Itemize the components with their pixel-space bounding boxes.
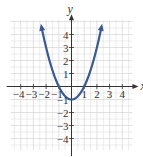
axes (7, 14, 139, 156)
parabola-chart: −4−3−2−112344321−1−2−3−4xy (0, 0, 143, 157)
x-tick-label: 4 (120, 88, 126, 100)
y-tick-label: 2 (63, 55, 69, 67)
x-tick-label: 2 (94, 88, 100, 100)
y-tick-label: −1 (57, 94, 69, 106)
y-tick-label: 3 (63, 42, 69, 54)
x-tick-label: 3 (107, 88, 113, 100)
y-tick-label: −4 (57, 133, 69, 145)
y-tick-label: −3 (57, 120, 69, 132)
x-tick-label: −2 (38, 88, 50, 100)
x-axis-label: x (139, 79, 143, 93)
x-tick-label: −4 (13, 88, 25, 100)
x-tick-label: 1 (81, 88, 87, 100)
y-tick-label: −2 (57, 107, 69, 119)
x-tick-label: −3 (26, 88, 38, 100)
y-tick-label: 1 (63, 68, 69, 80)
y-axis-label: y (67, 2, 74, 16)
y-tick-label: 4 (63, 29, 69, 41)
